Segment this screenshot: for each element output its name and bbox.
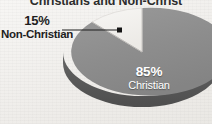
label-non-christian-name: Non-Christian [0, 28, 74, 41]
label-non-christian: 15% Non-Christian [0, 14, 74, 41]
label-christian-percent: 85% [118, 64, 180, 79]
label-christian: 85% Christian [118, 64, 180, 92]
callout-leader-dot [117, 28, 122, 33]
label-non-christian-percent: 15% [0, 14, 74, 28]
pie-chart-figure: Christians and Non-Christ [0, 0, 212, 124]
label-christian-name: Christian [118, 79, 180, 92]
